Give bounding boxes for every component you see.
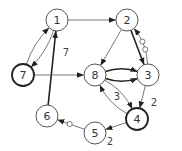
edge-weight-label: 7 <box>63 47 69 58</box>
edge-weight-label: 2 <box>151 97 157 108</box>
node-label: 7 <box>20 69 27 82</box>
edge-3-to-2 <box>134 28 148 64</box>
edge-circle-marker <box>143 47 148 52</box>
edge-2-to-8 <box>101 30 122 66</box>
edge-1-to-7 <box>31 30 54 67</box>
edge-7-to-1 <box>26 28 49 65</box>
node-label: 8 <box>92 69 99 82</box>
edge-4-to-5 <box>105 122 126 129</box>
edge-8-to-3 <box>105 79 137 82</box>
node-8: 8 <box>84 64 106 86</box>
node-2: 2 <box>116 9 138 31</box>
directed-graph: 7232 12345678 <box>0 0 182 151</box>
edge-weight-label: 2 <box>107 136 113 147</box>
nodes-layer: 12345678 <box>12 9 159 144</box>
edge-2-to-3 <box>131 30 144 64</box>
node-5: 5 <box>84 122 106 144</box>
node-label: 3 <box>145 69 152 82</box>
edge-circle-marker <box>67 121 72 126</box>
node-label: 4 <box>134 113 141 126</box>
node-label: 5 <box>92 127 99 140</box>
node-label: 2 <box>124 14 131 27</box>
edge-3-to-4 <box>140 86 146 109</box>
node-7: 7 <box>12 64 34 86</box>
node-4: 4 <box>126 108 148 130</box>
edge-circle-marker <box>140 39 145 44</box>
edge-weight-label: 3 <box>114 91 120 102</box>
node-label: 1 <box>54 14 61 27</box>
node-6: 6 <box>36 105 58 127</box>
edge-8-to-3 <box>105 69 137 72</box>
node-label: 6 <box>44 110 51 123</box>
node-3: 3 <box>137 64 159 86</box>
node-1: 1 <box>46 9 68 31</box>
